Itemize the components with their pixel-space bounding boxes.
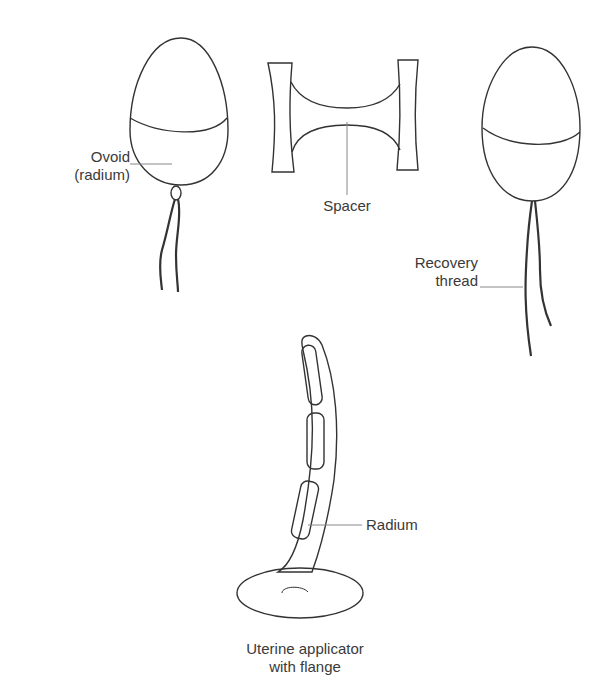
radium-label: Radium bbox=[366, 516, 418, 534]
ovoid-label-line1: Ovoid bbox=[60, 148, 130, 166]
recovery-thread-line1: Recovery bbox=[396, 254, 478, 272]
spacer bbox=[268, 60, 418, 195]
brachytherapy-applicators-diagram bbox=[0, 0, 614, 691]
ovoid-label: Ovoid (radium) bbox=[60, 148, 130, 184]
spacer-label: Spacer bbox=[312, 197, 382, 215]
recovery-thread-label: Recovery thread bbox=[396, 254, 478, 290]
uterine-applicator bbox=[237, 335, 363, 618]
radium-label-text: Radium bbox=[366, 516, 418, 534]
left-ovoid bbox=[130, 38, 228, 292]
right-ovoid bbox=[480, 47, 580, 356]
recovery-thread-line2: thread bbox=[396, 272, 478, 290]
spacer-label-text: Spacer bbox=[312, 197, 382, 215]
applicator-label-line2: with flange bbox=[200, 658, 410, 676]
uterine-applicator-label: Uterine applicator with flange bbox=[200, 640, 410, 676]
ovoid-label-line2: (radium) bbox=[60, 166, 130, 184]
applicator-label-line1: Uterine applicator bbox=[200, 640, 410, 658]
